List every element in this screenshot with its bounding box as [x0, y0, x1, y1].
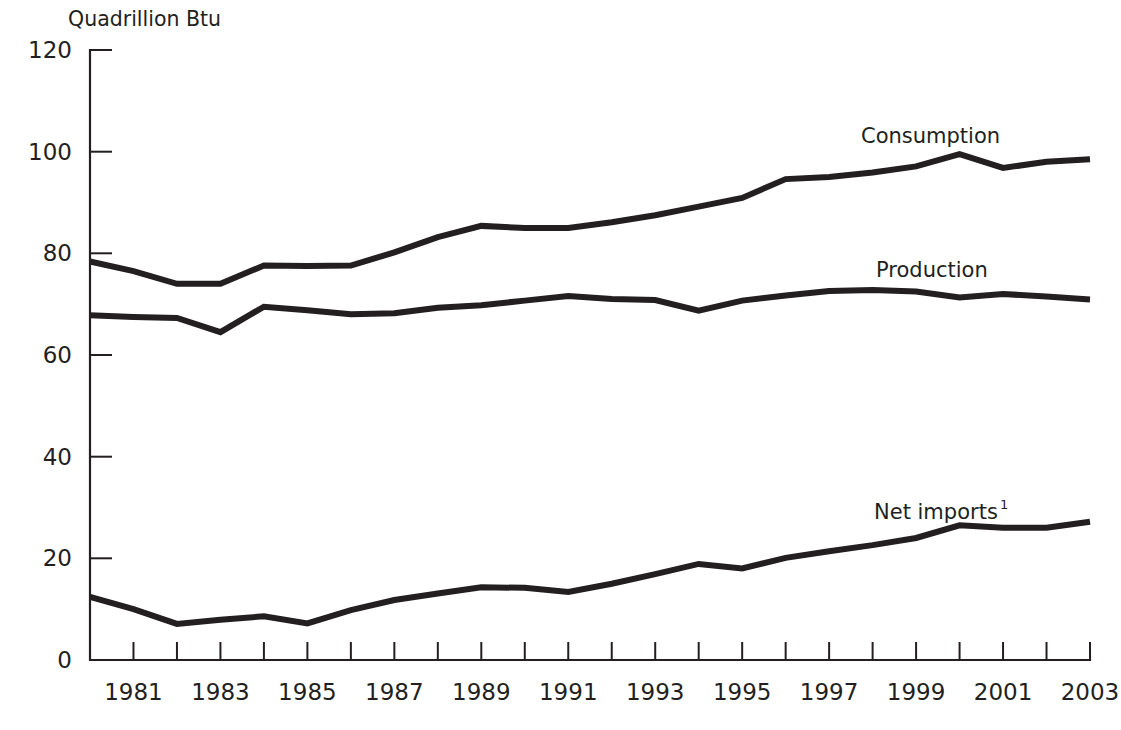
y-axis-unit-label: Quadrillion Btu	[68, 7, 221, 31]
y-tick-labels: 120 100 80 60 40 20 0	[28, 37, 72, 673]
x-tick-label-1981: 1981	[104, 679, 163, 705]
y-tick-label-100: 100	[28, 139, 72, 165]
series-label-net-imports-group: Net imports 1	[874, 497, 1008, 524]
x-tick-label-1987: 1987	[365, 679, 424, 705]
x-tick-label-1991: 1991	[539, 679, 598, 705]
series-line-net-imports	[90, 522, 1090, 624]
series-line-production	[90, 290, 1090, 332]
x-tick-label-1985: 1985	[278, 679, 337, 705]
x-tick-label-1983: 1983	[191, 679, 250, 705]
y-tick-label-20: 20	[43, 545, 72, 571]
chart-canvas: 120 100 80 60 40 20 0 Quadrillion Btu 19…	[0, 0, 1121, 730]
x-tick-label-2003: 2003	[1061, 679, 1120, 705]
y-tick-label-0: 0	[57, 647, 72, 673]
x-tick-label-2001: 2001	[974, 679, 1033, 705]
x-tick-label-1997: 1997	[800, 679, 859, 705]
x-tick-label-1989: 1989	[452, 679, 511, 705]
series-label-production: Production	[876, 258, 988, 282]
y-tick-label-120: 120	[28, 37, 72, 63]
series-label-net-imports-footnote: 1	[1000, 497, 1008, 512]
y-tick-marks	[90, 50, 112, 660]
x-tick-label-1995: 1995	[713, 679, 772, 705]
y-tick-label-60: 60	[43, 342, 72, 368]
x-tick-marks	[90, 642, 1090, 660]
series-label-net-imports: Net imports	[874, 500, 998, 524]
x-tick-label-1993: 1993	[626, 679, 685, 705]
y-tick-label-40: 40	[43, 444, 72, 470]
y-tick-label-80: 80	[43, 240, 72, 266]
energy-overview-chart: 120 100 80 60 40 20 0 Quadrillion Btu 19…	[0, 0, 1121, 730]
series-paths	[90, 154, 1090, 624]
x-tick-label-1999: 1999	[887, 679, 946, 705]
x-tick-labels: 1981198319851987198919911993199519971999…	[104, 679, 1119, 705]
series-label-consumption: Consumption	[861, 124, 1000, 148]
